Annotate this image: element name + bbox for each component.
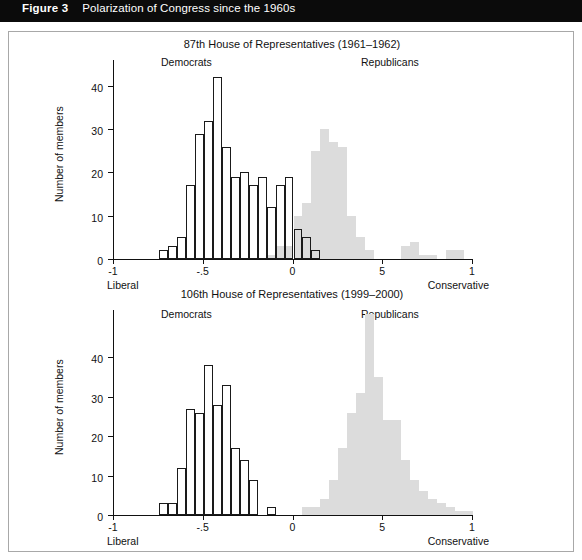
histogram-bar	[195, 134, 204, 259]
x-axis-tick-label: 5	[362, 521, 402, 533]
x-axis-right-label-106th: Conservative	[428, 535, 489, 547]
histogram-bar	[186, 185, 195, 259]
histogram-bar	[365, 314, 374, 515]
histogram-bar	[446, 250, 455, 259]
histogram-bar	[267, 207, 276, 259]
histogram-bar	[347, 413, 356, 516]
histogram-bars-87th	[114, 59, 473, 259]
x-axis-tick-label: 1	[452, 521, 492, 533]
x-axis-tick-label: 0	[273, 521, 313, 533]
histogram-bar	[401, 460, 410, 515]
x-axis-tick-label: -1	[93, 521, 133, 533]
histogram-bar	[311, 507, 320, 515]
group-label-democrats-87th: Democrats	[161, 56, 212, 68]
x-axis-tick	[293, 515, 294, 520]
y-axis-tick-label: 40	[63, 353, 103, 365]
histogram-bar	[320, 499, 329, 515]
x-axis-tick-label: 1	[452, 265, 492, 277]
histogram-bar	[213, 405, 222, 515]
histogram-bar	[231, 177, 240, 259]
x-axis-tick-label: 0	[273, 265, 313, 277]
histogram-bar	[177, 237, 186, 259]
histogram-bar	[401, 246, 410, 259]
histogram-bar	[455, 511, 464, 515]
histogram-bar	[159, 250, 168, 259]
y-axis-tick	[108, 436, 113, 437]
y-axis-tick-label: 30	[63, 125, 103, 137]
chart-title-106th: 106th House of Representatives (1999–200…	[9, 288, 575, 300]
histogram-bar	[294, 229, 303, 259]
histogram-bar	[195, 413, 204, 516]
histogram-bar	[428, 499, 437, 515]
histogram-bars-106th	[114, 309, 473, 515]
histogram-bar	[168, 503, 177, 515]
x-axis-tick	[472, 515, 473, 520]
y-axis-tick	[108, 86, 113, 87]
y-axis-tick-label: 10	[63, 472, 103, 484]
histogram-bar	[204, 365, 213, 515]
y-axis-tick-label: 40	[63, 82, 103, 94]
group-label-republicans-87th: Republicans	[361, 56, 419, 68]
y-axis-tick	[108, 397, 113, 398]
histogram-bar	[240, 172, 249, 259]
histogram-bar	[410, 480, 419, 515]
y-axis-title-106th: Number of members	[53, 359, 65, 455]
histogram-bar	[249, 185, 258, 259]
y-axis-tick-label: 30	[63, 393, 103, 405]
y-axis-tick	[108, 476, 113, 477]
histogram-bar	[338, 448, 347, 515]
group-label-democrats-106th: Democrats	[161, 308, 212, 320]
histogram-bar	[249, 480, 258, 515]
histogram-bar	[285, 177, 294, 259]
histogram-bar	[267, 507, 276, 515]
figure-caption: Polarization of Congress since the 1960s	[82, 2, 295, 14]
histogram-bar	[231, 448, 240, 515]
y-axis-tick-label: 20	[63, 432, 103, 444]
x-axis-tick	[113, 259, 114, 264]
histogram-bar	[365, 250, 374, 259]
figure-frame: 87th House of Representatives (1961–1962…	[8, 31, 574, 552]
histogram-bar	[347, 216, 356, 259]
y-axis-tick	[108, 216, 113, 217]
histogram-bar	[222, 385, 231, 515]
histogram-bar	[329, 480, 338, 515]
histogram-bar	[455, 250, 464, 259]
histogram-bar	[320, 129, 329, 259]
x-axis-tick-label: -1	[93, 265, 133, 277]
histogram-bar	[222, 147, 231, 259]
plot-area-106th: 010203040 -1-.5051 Number of members Lib…	[113, 310, 473, 516]
y-axis-tick	[108, 129, 113, 130]
x-axis-tick-label: 5	[362, 265, 402, 277]
x-axis-tick	[382, 515, 383, 520]
histogram-bar	[329, 142, 338, 259]
x-axis-tick	[382, 259, 383, 264]
histogram-bar	[338, 147, 347, 259]
histogram-bar	[258, 177, 267, 259]
x-axis-tick	[113, 515, 114, 520]
histogram-bar	[446, 507, 455, 515]
histogram-bar	[204, 121, 213, 259]
histogram-bar	[159, 503, 168, 515]
figure-header-text: Figure 3Polarization of Congress since t…	[22, 0, 295, 19]
y-axis-tick-label: 10	[63, 212, 103, 224]
histogram-bar	[311, 151, 320, 259]
x-axis-tick	[203, 259, 204, 264]
histogram-bar	[168, 246, 177, 259]
y-axis-title-87th: Number of members	[53, 106, 65, 202]
figure-header-bar: Figure 3Polarization of Congress since t…	[0, 0, 582, 22]
x-axis-tick	[472, 259, 473, 264]
histogram-bar	[311, 250, 320, 259]
chart-panel-106th: 106th House of Representatives (1999–200…	[9, 288, 575, 546]
y-axis-tick	[108, 172, 113, 173]
x-axis-left-label-106th: Liberal	[107, 535, 139, 547]
x-axis-tick-label: -.5	[183, 521, 223, 533]
y-axis-tick	[108, 357, 113, 358]
histogram-bar	[437, 503, 446, 515]
histogram-bar	[374, 377, 383, 515]
chart-title-87th: 87th House of Representatives (1961–1962…	[9, 38, 575, 50]
histogram-bar	[302, 507, 311, 515]
plot-area-87th: 010203040 -1-.5051 Number of members Lib…	[113, 60, 473, 260]
figure-number: Figure 3	[22, 2, 68, 14]
histogram-bar	[383, 420, 392, 515]
histogram-bar	[356, 393, 365, 515]
